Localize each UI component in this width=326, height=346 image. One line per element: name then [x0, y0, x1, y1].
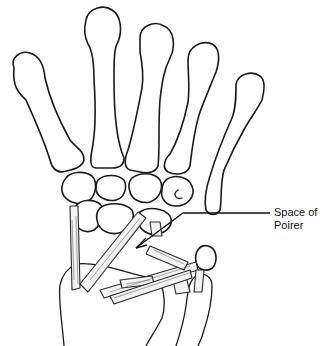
carpal-pisiform — [196, 246, 216, 270]
bone-first-metacarpal — [13, 52, 84, 172]
label-line-2: Poirer — [274, 219, 317, 232]
ligament-ulnar-collateral — [194, 270, 204, 292]
bone-second-metacarpal — [85, 7, 124, 168]
wrist-illustration — [0, 0, 326, 346]
label-line-1: Space of — [274, 206, 317, 219]
arrow-head-icon — [136, 238, 147, 248]
carpal-trapezoid — [96, 176, 126, 201]
carpal-trapezium — [62, 172, 96, 203]
label-space-of-poirer: Space of Poirer — [274, 206, 317, 232]
bone-fourth-metacarpal — [164, 43, 218, 174]
carpal-capitate — [129, 174, 162, 203]
wrist-anatomy-figure: Space of Poirer — [0, 0, 326, 346]
bone-third-metacarpal — [125, 24, 173, 173]
ligament-ulnotriquetral — [146, 246, 188, 270]
bone-fifth-metacarpal — [205, 73, 264, 214]
ligament-radial-collateral — [70, 206, 80, 290]
